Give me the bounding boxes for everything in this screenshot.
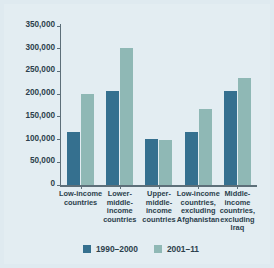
legend-swatch-icon: [83, 245, 91, 253]
y-tick-label: 200,000: [25, 88, 55, 97]
legend-item[interactable]: 2001–11: [154, 244, 199, 254]
bar: [159, 140, 172, 185]
chart-legend: 1990–20002001–11: [4, 244, 274, 254]
bar: [67, 132, 80, 185]
y-tick-label: 0: [50, 179, 55, 188]
bar: [145, 139, 158, 185]
chart-canvas: US$ millions (2010 prices) 350,000300,00…: [4, 4, 270, 264]
bar-group: [218, 26, 257, 185]
x-axis-labels: Low-incomecountriesLower-middle-incomeco…: [61, 190, 257, 236]
bar: [106, 91, 119, 185]
bar: [238, 78, 251, 185]
y-tick-label: 250,000: [25, 65, 55, 74]
legend-item[interactable]: 1990–2000: [83, 244, 138, 254]
bar-groups: [61, 26, 257, 185]
bar: [199, 109, 212, 185]
bar: [120, 48, 133, 185]
y-tick-label: 50,000: [30, 156, 55, 165]
bar-group: [179, 26, 218, 185]
plot-area: 350,000300,000250,000200,000150,000100,0…: [61, 26, 257, 185]
bar-group: [100, 26, 139, 185]
y-tick-label: 100,000: [25, 134, 55, 143]
bar: [81, 94, 94, 185]
legend-label: 1990–2000: [96, 244, 138, 254]
bar: [185, 132, 198, 185]
legend-label: 2001–11: [167, 244, 199, 254]
x-axis-label: Middle-incomecountries,excludingIraq: [215, 190, 260, 233]
bar-group: [139, 26, 178, 185]
bar-group: [61, 26, 100, 185]
y-tick-label: 300,000: [25, 43, 55, 52]
x-axis-label-line: Iraq: [215, 224, 260, 233]
y-tick-label: 150,000: [25, 111, 55, 120]
chart-figure: US$ millions (2010 prices) 350,000300,00…: [0, 0, 274, 268]
legend-swatch-icon: [154, 245, 162, 253]
bar: [224, 91, 237, 185]
y-tick-label: 350,000: [25, 20, 55, 29]
